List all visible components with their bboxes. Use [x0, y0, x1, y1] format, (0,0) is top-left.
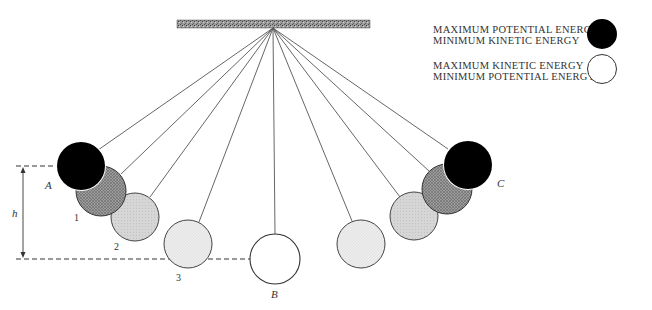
pendulum-ball-3 [164, 220, 212, 268]
label-1: 1 [74, 212, 79, 223]
pendulum-ball-B [250, 234, 300, 284]
legend-swatch-max-potential [587, 19, 617, 49]
label-3: 3 [176, 272, 181, 283]
legend: MAXIMUM POTENTIAL ENERGY MINIMUM KINETIC… [433, 19, 617, 84]
label-B: B [271, 288, 278, 300]
legend-item-2-line-2: MINIMUM POTENTIAL ENERGY [433, 71, 596, 82]
label-2: 2 [114, 241, 119, 252]
height-arrow [21, 167, 26, 258]
pendulum-ball-3-right [337, 220, 385, 268]
label-h: h [12, 207, 18, 219]
pendulum-ball-A [57, 142, 105, 190]
ceiling-bar [177, 20, 370, 28]
legend-swatch-max-kinetic [588, 55, 617, 84]
pendulum-diagram: A 1 2 3 B C h MAXIMUM POTENTIAL ENERGY M… [0, 0, 652, 310]
legend-item-2-line-1: MAXIMUM KINETIC ENERGY [433, 60, 584, 71]
label-A: A [44, 179, 52, 191]
legend-item-1-line-1: MAXIMUM POTENTIAL ENERGY [433, 24, 600, 35]
pendulum-ball-C-fill [444, 141, 492, 189]
legend-item-1-line-2: MINIMUM KINETIC ENERGY [433, 35, 580, 46]
label-C: C [497, 177, 505, 189]
